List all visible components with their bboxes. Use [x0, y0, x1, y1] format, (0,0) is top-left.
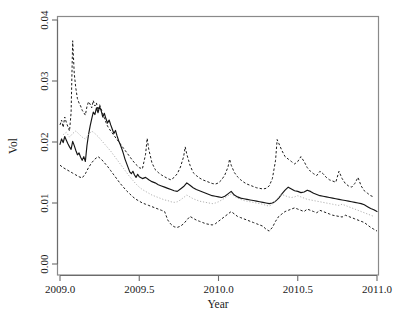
y-tick-label: 0.04 — [38, 10, 50, 30]
y-tick-label: 0.01 — [38, 193, 50, 212]
y-tick-label: 0.00 — [38, 254, 50, 274]
x-tick-label: 2011.0 — [362, 283, 392, 295]
chart-canvas: 0.000.010.020.030.04 2009.02009.52010.02… — [0, 0, 397, 323]
y-tick-label: 0.02 — [38, 132, 50, 151]
x-tick-label: 2010.5 — [283, 283, 314, 295]
x-tick-label: 2009.0 — [45, 283, 76, 295]
y-axis-title: Vol — [7, 138, 19, 154]
x-axis-title: Year — [207, 298, 228, 310]
x-tick-label: 2010.0 — [203, 283, 234, 295]
x-tick-label: 2009.5 — [124, 283, 155, 295]
y-tick-label: 0.03 — [38, 71, 50, 91]
volatility-chart-figure: 0.000.010.020.030.04 2009.02009.52010.02… — [0, 0, 397, 323]
